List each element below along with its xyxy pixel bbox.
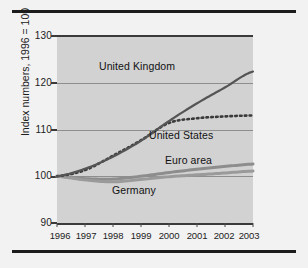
series-united-kingdom [57,72,253,177]
x-tick-2003: 2003 [239,230,260,241]
x-tick-mark-2000 [169,223,170,227]
x-tick-2002: 2002 [214,230,235,241]
x-tick-2000: 2000 [159,230,180,241]
series-germany [57,171,253,182]
x-tick-2001: 2001 [187,230,208,241]
x-tick-mark-2002 [225,223,226,227]
x-tick-mark-1999 [141,223,142,227]
figure-panel: Index numbers, 1996 = 100 130 120 110 10… [0,0,308,268]
x-tick-mark-2003 [253,223,254,227]
x-tick-mark-1997 [85,223,86,227]
y-tick-130: 130 [4,30,52,41]
y-tick-110: 110 [4,124,52,135]
x-tick-1996: 1996 [50,230,71,241]
x-tick-1999: 1999 [131,230,152,241]
series-label-united-states: United States [149,129,213,141]
x-tick-1997: 1997 [76,230,97,241]
series-label-euro-area: Euro area [165,154,212,166]
x-tick-1998: 1998 [103,230,124,241]
y-tick-120: 120 [4,77,52,88]
series-label-germany: Germany [112,184,156,196]
series-label-united-kingdom: United Kingdom [99,60,175,72]
plot-area: United Kingdom United States Euro area G… [57,36,253,223]
x-tick-labels: 1996 1997 1998 1999 2000 2001 2002 2003 [57,227,253,247]
plot-wrapper: Index numbers, 1996 = 100 130 120 110 10… [0,14,308,248]
x-tick-mark-2001 [197,223,198,227]
y-tick-100: 100 [4,170,52,181]
y-tick-90: 90 [4,217,52,228]
top-rule [12,10,296,13]
x-tick-mark-1996 [57,223,58,227]
bottom-rule [12,250,296,253]
x-tick-mark-1998 [113,223,114,227]
